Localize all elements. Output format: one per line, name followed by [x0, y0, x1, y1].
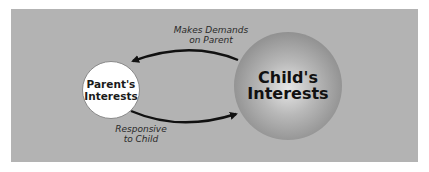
edge-label-line1: Makes Demands [170, 25, 252, 35]
edge-label-line2: on Parent [170, 35, 252, 45]
arrow-child-to-parent [133, 50, 238, 61]
node-parents-interests: Parent's Interests [82, 61, 140, 119]
node-label-line1: Parent's [87, 78, 136, 90]
edge-label-responsive: Responsive to Child [112, 124, 170, 144]
node-label-line2: Interests [247, 86, 328, 102]
edge-label-line1: Responsive [112, 124, 170, 134]
node-childs-interests: Child's Interests [234, 32, 342, 140]
node-label-line2: Interests [84, 90, 137, 102]
edge-label-line2: to Child [112, 134, 170, 144]
edge-label-makes-demands: Makes Demands on Parent [170, 25, 252, 45]
arrow-parent-to-child [131, 111, 236, 122]
